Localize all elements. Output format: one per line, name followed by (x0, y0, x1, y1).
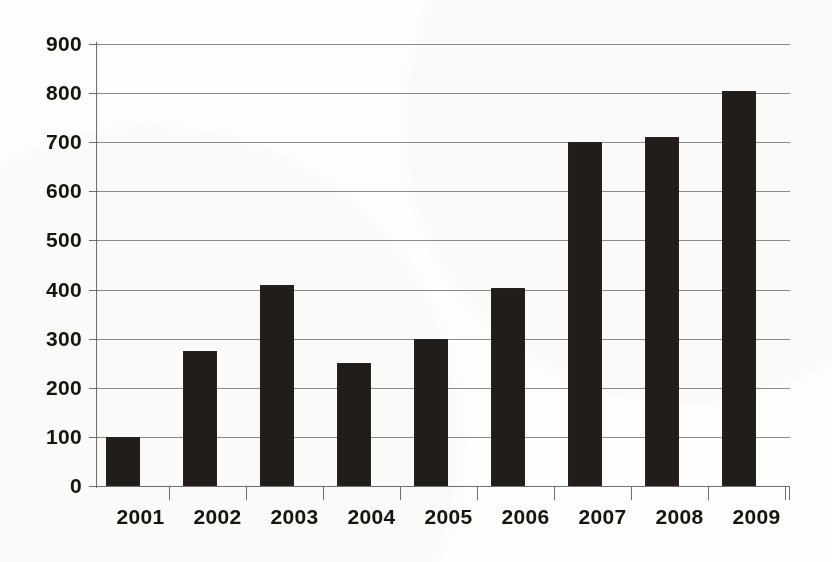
y-axis-tick-mark (89, 240, 98, 241)
bar-2007 (568, 142, 602, 486)
x-axis-tick-label-2006: 2006 (486, 505, 566, 529)
x-axis-tick-mark (246, 487, 247, 500)
bar-2008 (645, 137, 679, 486)
x-axis-tick-label-2002: 2002 (178, 505, 258, 529)
x-axis-tick-mark (631, 487, 632, 500)
y-axis-tick-mark (89, 339, 98, 340)
x-axis-tick-label-2004: 2004 (332, 505, 412, 529)
gridline (97, 191, 790, 192)
y-axis-tick-label: 700 (4, 130, 82, 154)
bar-2006 (491, 288, 525, 486)
gridline (97, 44, 790, 45)
bar-2003 (260, 285, 294, 486)
gridline (97, 142, 790, 143)
bar-2009 (722, 91, 756, 486)
gridline (97, 290, 790, 291)
gridline (97, 240, 790, 241)
y-axis-tick-label: 400 (4, 278, 82, 302)
y-axis-tick-label: 200 (4, 376, 82, 400)
x-axis-tick-mark (169, 487, 170, 500)
x-axis-tick-label-2001: 2001 (101, 505, 181, 529)
x-axis-tick-label-2003: 2003 (255, 505, 335, 529)
y-axis-tick-mark (89, 290, 98, 291)
y-axis-tick-mark (89, 93, 98, 94)
y-axis-tick-mark (89, 142, 98, 143)
x-axis-tick-mark (554, 487, 555, 500)
plot-area (97, 44, 790, 486)
y-axis-tick-mark (89, 437, 98, 438)
x-axis-tick-label-2005: 2005 (409, 505, 489, 529)
x-axis-tick-label-2009: 2009 (717, 505, 797, 529)
y-axis-tick-label: 100 (4, 425, 82, 449)
y-axis-tick-label: 600 (4, 179, 82, 203)
x-axis-tick-label-2007: 2007 (563, 505, 643, 529)
x-axis-tick-mark (708, 487, 709, 500)
bar-2004 (337, 363, 371, 486)
y-axis-tick-mark (89, 191, 98, 192)
y-axis-tick-mark (89, 486, 98, 487)
y-axis-tick-label: 900 (4, 32, 82, 56)
y-axis-tick-mark (89, 44, 98, 45)
x-axis-tick-labels: 200120022003200420052006200720082009 (0, 505, 832, 545)
bar-2005 (414, 339, 448, 486)
x-axis-tick-mark (785, 487, 786, 500)
y-axis-tick-label: 500 (4, 228, 82, 252)
y-axis-tick-labels: 0100200300400500600700800900 (0, 0, 82, 562)
bar-2002 (183, 351, 217, 486)
y-axis-tick-mark (89, 388, 98, 389)
y-axis-tick-label: 300 (4, 327, 82, 351)
x-axis-ticks (0, 486, 832, 506)
bar-chart-figure: 0100200300400500600700800900 20012002200… (0, 0, 832, 562)
gridline (97, 93, 790, 94)
y-axis-tick-label: 800 (4, 81, 82, 105)
bar-2001 (106, 437, 140, 486)
x-axis-tick-mark (477, 487, 478, 500)
axis-right-corner-tick (789, 487, 790, 500)
x-axis-tick-label-2008: 2008 (640, 505, 720, 529)
x-axis-tick-mark (400, 487, 401, 500)
x-axis-tick-mark (323, 487, 324, 500)
